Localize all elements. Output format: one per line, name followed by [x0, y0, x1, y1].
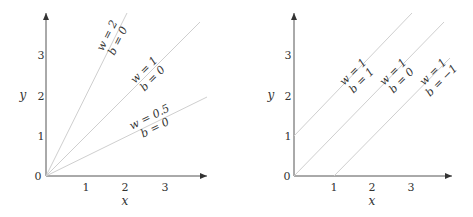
right-y-tick-0: 0 — [284, 170, 291, 183]
right-y-tick-3: 3 — [285, 49, 292, 62]
left-y-tick-0: 0 — [35, 170, 42, 183]
left-y-label: y — [19, 88, 27, 102]
right-x-label: x — [369, 194, 376, 208]
left-x-tick-1: 1 — [83, 181, 90, 194]
right-panel: 0 1 2 3 1 2 3 x y w = 1 b = 1 w = 1 b = … — [267, 13, 461, 208]
left-panel: 0 1 2 3 1 2 3 x y w = 2 b = 0 w = 1 b = … — [19, 13, 207, 208]
left-x-tick-2: 2 — [122, 181, 129, 194]
diagram: 0 1 2 3 1 2 3 x y w = 2 b = 0 w = 1 b = … — [0, 0, 473, 217]
right-line-w1-b0 — [294, 22, 444, 176]
left-label-w2-b0: w = 2 b = 0 — [94, 18, 131, 58]
right-y-tick-1: 1 — [285, 130, 292, 143]
right-x-tick-2: 2 — [369, 181, 376, 194]
left-x-tick-3: 3 — [162, 181, 169, 194]
right-y-tick-2: 2 — [285, 90, 292, 103]
left-y-tick-2: 2 — [38, 90, 45, 103]
left-label-w05-b0: w = 0.5 b = 0 — [127, 102, 177, 144]
right-label-w1-bm1: w = 1 b = −1 — [415, 54, 461, 100]
right-y-label: y — [267, 88, 275, 102]
right-x-tick-3: 3 — [408, 181, 415, 194]
right-label-w1-b0: w = 1 b = 0 — [377, 56, 418, 97]
left-line-w1-b0 — [46, 22, 200, 176]
right-label-w1-b1: w = 1 b = 1 — [337, 56, 378, 97]
left-x-label: x — [122, 194, 129, 208]
left-line-w05-b0 — [46, 97, 207, 176]
left-y-tick-3: 3 — [38, 49, 45, 62]
right-x-tick-1: 1 — [331, 181, 338, 194]
left-y-tick-1: 1 — [38, 130, 45, 143]
